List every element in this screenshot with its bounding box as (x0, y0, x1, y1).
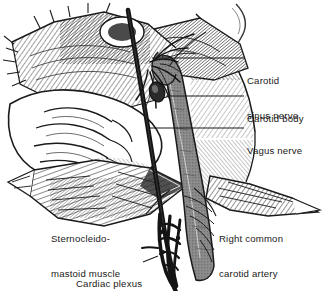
label-carotid-sinus-nerve-line1: Carotid (247, 75, 298, 87)
label-vagus-nerve: Vagus nerve (247, 122, 302, 180)
label-right-common-carotid-artery-line2: carotid artery (219, 268, 283, 280)
label-cardiac-plexus-text: Cardiac plexus (76, 278, 142, 290)
label-cardiac-plexus: Cardiac plexus (76, 255, 142, 291)
label-right-common-carotid-artery: Right common carotid artery (219, 210, 283, 291)
label-vagus-nerve-text: Vagus nerve (247, 145, 302, 157)
anatomical-figure: Carotid sinus nerve Carotid body Vagus n… (0, 0, 324, 291)
label-right-common-carotid-artery-line1: Right common (219, 233, 283, 245)
gland-structure (100, 17, 144, 47)
label-sternocleidomastoid-muscle-line1: Sternocleido- (51, 233, 120, 245)
